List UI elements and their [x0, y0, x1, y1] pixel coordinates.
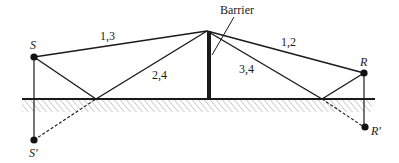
path-1-2-label: 1,2 [281, 35, 296, 49]
receiver-image-point [361, 123, 368, 130]
barrier [207, 31, 211, 99]
source-label: S [30, 38, 36, 52]
path-3-4-label: 3,4 [239, 62, 254, 76]
source-point [30, 53, 37, 60]
path-1-3-label: 1,3 [100, 29, 115, 43]
path-1-3 [34, 31, 207, 57]
ground-hatching [22, 100, 372, 112]
path-2-4-label: 2,4 [152, 68, 167, 82]
receiver-image-label: R' [370, 124, 381, 138]
barrier-label: Barrier [220, 3, 254, 17]
source-image-label: S' [29, 146, 38, 160]
path-3-4 [207, 31, 322, 99]
receiver-point [360, 69, 367, 76]
receiver-label: R [359, 55, 368, 69]
path-receiver-reflection [322, 73, 364, 99]
source-image-point [30, 136, 37, 143]
path-source-reflection [34, 57, 96, 99]
barrier-diagram: S S' R R' Barrier 1,3 2,4 3,4 1,2 [0, 0, 399, 163]
